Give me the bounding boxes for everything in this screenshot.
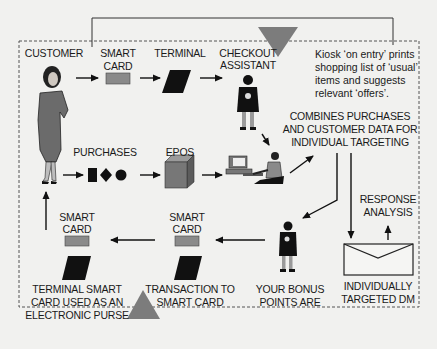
arrow-computer-to-combines [290,156,313,173]
terminal-transaction-icon [174,256,202,280]
kiosk-connector-line [92,18,393,47]
label-dm-1: INDIVIDUALLY [338,280,418,292]
customer-figure-icon [38,66,68,184]
terminal-top-icon [162,70,191,93]
computer-operator-icon [226,152,284,184]
arrow-combines-to-bonus [303,153,337,218]
checkout-assistant-icon [237,75,259,130]
label-purchases: PURCHASES [70,146,140,158]
label-transaction-2: SMART CARD [140,296,240,308]
label-checkout-2: ASSISTANT [218,59,278,71]
label-combines-3: INDIVIDUAL TARGETING [280,136,420,148]
purchase-item-circle-icon [116,170,127,181]
arrow-checkout-to-computer [262,134,269,145]
label-smart-card-top-1: SMART [98,47,138,59]
bonus-person-icon [279,222,297,273]
label-dm-2: TARGETED DM [338,293,418,305]
label-response-2: ANALYSIS [358,206,418,218]
label-smart-card-left-2: CARD [56,223,98,235]
label-smart-card-top-2: CARD [98,60,138,72]
diagram-canvas: CUSTOMER SMART CARD TERMINAL CHECKOUT AS… [0,0,437,349]
label-terminal: TERMINAL [150,47,210,59]
epos-box-icon [165,155,194,188]
purchase-item-diamond-icon [100,168,112,182]
label-smart-card-left-1: SMART [56,211,98,223]
smart-card-left-icon [65,236,89,246]
label-response-1: RESPONSE [358,193,418,205]
label-transaction-1: TRANSACTION TO [140,283,240,295]
purchase-item-square-icon [88,168,97,182]
terminal-purse-icon [62,256,91,280]
label-checkout-1: CHECKOUT [218,47,278,59]
label-combines-2: AND CUSTOMER DATA FOR [280,123,420,135]
label-combines-1: COMBINES PURCHASES [280,110,420,122]
smart-card-mid-icon [175,236,199,246]
label-smart-card-mid-2: CARD [166,223,208,235]
label-terminal-purse-3: ELECTRONIC PURSE [22,309,132,321]
smart-card-top-icon [106,73,130,84]
label-customer: CUSTOMER [22,47,86,59]
label-bonus-1: YOUR BONUS [250,283,330,295]
label-smart-card-mid-1: SMART [166,211,208,223]
label-epos: EPOS [160,146,200,158]
kiosk-note: Kiosk ‘on entry’ prints shopping list of… [315,48,427,100]
label-terminal-purse-2: CARD USED AS AN [22,296,132,308]
label-terminal-purse-1: TERMINAL SMART [22,283,132,295]
envelope-dm-icon [344,244,413,275]
label-bonus-2: POINTS ARE [250,296,330,308]
